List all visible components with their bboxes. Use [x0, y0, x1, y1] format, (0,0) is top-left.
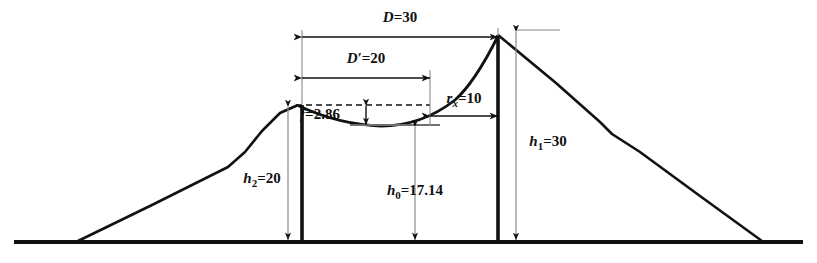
- label-h2-number: 20: [266, 170, 281, 186]
- label-Dprime-number: 20: [370, 50, 385, 66]
- label-span-D: D=30: [382, 9, 417, 25]
- profile-diagram: D=30 D′=20 rx=10 f=2.86 h2=20 h1=30 h0: [0, 0, 817, 263]
- label-dist-rx: rx=10: [447, 90, 482, 108]
- label-height-h2: h2=20: [243, 170, 280, 188]
- label-span-D-value: =: [394, 9, 403, 25]
- label-height-h1: h1=30: [529, 133, 566, 151]
- label-f-number: 2.86: [314, 106, 341, 122]
- label-span-D-number: 30: [402, 9, 417, 25]
- label-rx-number: 10: [466, 90, 481, 106]
- label-span-Dprime: D′=20: [346, 50, 386, 66]
- label-sag-f: f=2.86: [300, 106, 340, 122]
- diagram-canvas: D=30 D′=20 rx=10 f=2.86 h2=20 h1=30 h0: [0, 0, 817, 263]
- label-h0-number: 17.14: [409, 182, 443, 198]
- label-height-h0: h0=17.14: [387, 182, 444, 200]
- label-h1-number: 30: [552, 133, 567, 149]
